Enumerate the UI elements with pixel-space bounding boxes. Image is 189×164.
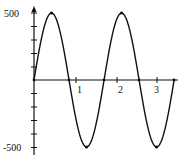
x-label-2: 2 [118, 84, 123, 95]
x-label-3: 3 [154, 84, 159, 95]
sine-chart: 500 -500 1 2 3 [0, 0, 189, 164]
y-axis-arrow-up [32, 6, 37, 12]
y-label-neg500: -500 [3, 142, 21, 153]
y-label-500: 500 [4, 8, 19, 19]
x-label-1: 1 [77, 84, 82, 95]
